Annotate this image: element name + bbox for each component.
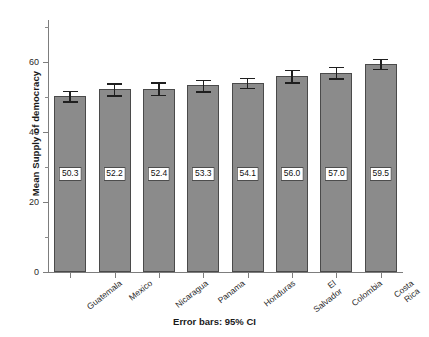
- error-bar-cap-lower: [373, 69, 388, 71]
- error-bar-cap-upper: [240, 78, 255, 80]
- bar-value-label: 54.1: [236, 167, 259, 181]
- error-bar-stem: [291, 70, 293, 83]
- x-tick-6: [336, 272, 337, 278]
- x-category-label: Panama: [216, 278, 247, 305]
- y-minor-tick-50: [45, 97, 49, 98]
- x-axis-title: Error bars: 95% CI: [0, 316, 429, 327]
- error-bar-cap-lower: [151, 95, 166, 97]
- x-category-label: Nicaragua: [173, 278, 210, 310]
- error-bar-cap-lower: [63, 101, 78, 103]
- bar: [54, 96, 86, 272]
- x-category-label: Colombia: [350, 278, 384, 308]
- y-tick-label-40: 40: [29, 127, 39, 137]
- x-category-label: Honduras: [262, 278, 297, 309]
- error-bar-stem: [114, 83, 116, 95]
- y-minor-tick-30: [45, 167, 49, 168]
- y-tick-0: [43, 272, 49, 273]
- bar-value-label: 56.0: [281, 167, 304, 181]
- bar-value-label: 52.4: [148, 167, 171, 181]
- bar-value-label: 50.3: [59, 167, 82, 181]
- error-bar-cap-upper: [373, 59, 388, 61]
- y-minor-tick-10: [45, 237, 49, 238]
- error-bar-cap-lower: [329, 78, 344, 80]
- y-minor-tick-70: [45, 27, 49, 28]
- x-category-label: El Salvador: [305, 278, 344, 314]
- bar-value-label: 57.0: [325, 167, 348, 181]
- error-bar-cap-upper: [196, 80, 211, 82]
- x-tick-5: [292, 272, 293, 278]
- x-category-label: Guatemala: [85, 278, 124, 311]
- error-bar-cap-upper: [107, 83, 122, 85]
- error-bar-cap-upper: [329, 67, 344, 69]
- error-bar-cap-lower: [107, 95, 122, 97]
- bar-value-label: 53.3: [192, 167, 215, 181]
- y-tick-label-60: 60: [29, 57, 39, 67]
- error-bar-cap-upper: [285, 70, 300, 72]
- x-category-label: Mexico: [126, 278, 153, 302]
- x-category-label: Costa Rica: [392, 278, 422, 307]
- y-tick-label-20: 20: [29, 197, 39, 207]
- bar-chart: Mean Supply of democracy 0204060 50.352.…: [0, 0, 429, 337]
- x-tick-7: [381, 272, 382, 278]
- x-tick-2: [159, 272, 160, 278]
- error-bar-stem: [158, 82, 160, 95]
- y-tick-20: [43, 202, 49, 203]
- bar-value-label: 59.5: [370, 167, 393, 181]
- x-axis-line: [48, 272, 403, 273]
- error-bar-stem: [336, 67, 338, 79]
- error-bar-cap-upper: [63, 91, 78, 93]
- error-bar-cap-lower: [196, 91, 211, 93]
- error-bar-cap-lower: [240, 88, 255, 90]
- x-tick-4: [248, 272, 249, 278]
- error-bar-cap-upper: [151, 82, 166, 84]
- error-bar-stem: [69, 91, 71, 102]
- error-bar-cap-lower: [285, 82, 300, 84]
- y-tick-60: [43, 62, 49, 63]
- x-tick-0: [70, 272, 71, 278]
- error-bar-stem: [203, 80, 205, 92]
- y-tick-label-0: 0: [34, 267, 39, 277]
- y-tick-40: [43, 132, 49, 133]
- y-axis-line: [48, 20, 49, 272]
- plot-area: 0204060 50.352.252.453.354.156.057.059.5: [48, 20, 403, 272]
- x-tick-1: [115, 272, 116, 278]
- bar-value-label: 52.2: [103, 167, 126, 181]
